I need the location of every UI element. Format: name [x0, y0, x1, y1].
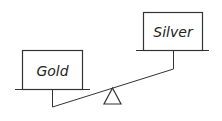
silver-label: Silver: [143, 25, 203, 39]
gold-label: Gold: [22, 64, 83, 78]
balance-scale-diagram: [0, 0, 222, 121]
